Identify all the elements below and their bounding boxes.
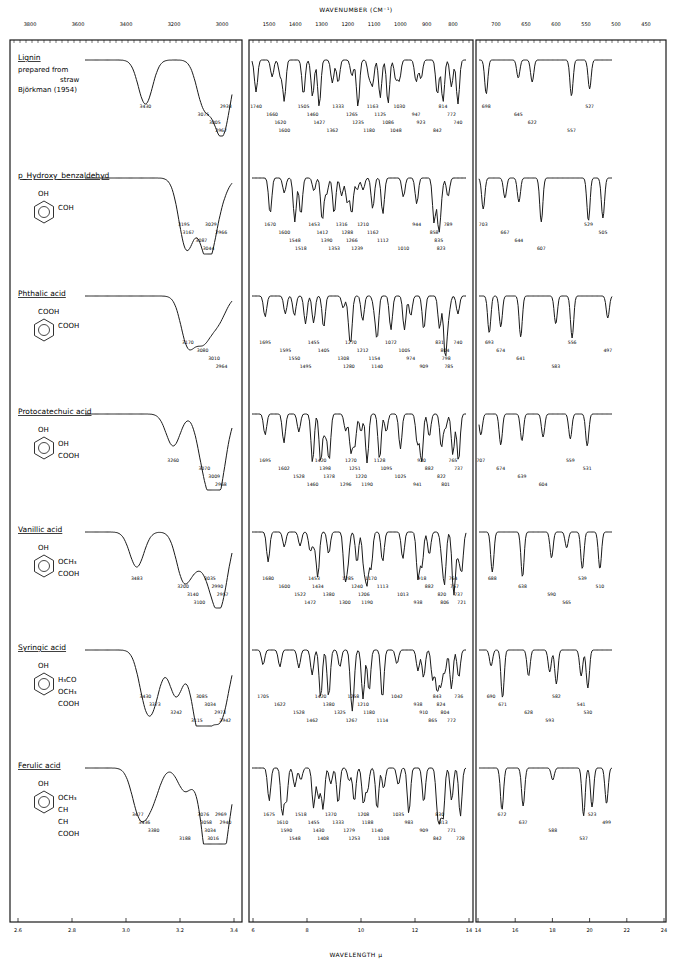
peak-label: 1455 [308,820,320,825]
peak-label: 909 [419,364,428,369]
peak-label: 3430 [140,104,152,109]
bottom-tick-label: 2.8 [68,927,76,933]
peak-label: 1251 [349,466,361,471]
peak-label: 830 [435,812,444,817]
top-tick-label: 800 [448,21,458,27]
peak-label: 1308 [337,356,349,361]
spectrum-trace-p3 [479,768,612,816]
peak-label: 772 [447,718,456,723]
benzene-ring-icon [35,319,54,341]
peak-label: 1258 [347,694,359,699]
peak-label: 3477 [132,812,144,817]
peak-label: 983 [404,820,413,825]
top-tick-label: 600 [551,21,561,27]
peak-label: 3016 [207,836,219,841]
peak-label: 842 [433,836,442,841]
peak-label: 882 [425,584,434,589]
peak-label: 1420 [315,458,327,463]
peak-label: 1239 [351,246,363,251]
spectrum-trace-p3 [479,60,612,96]
peak-label: 531 [583,466,592,471]
peak-label: 667 [501,230,510,235]
top-tick-label: 1000 [394,21,407,27]
formula-group: OH [38,662,49,670]
bottom-tick-label: 22 [624,927,630,933]
spectrum-row: p_Hydroxy_benzaldehydOHCOH31953167308730… [18,171,612,254]
peak-label: 537 [579,836,588,841]
peak-label: 1154 [368,356,380,361]
spectra: Ligninprepared fromstrawBjörkman (1954)3… [18,53,612,844]
peak-label: 1427 [313,120,325,125]
peak-label: 1505 [298,104,310,109]
peak-label: 737 [454,592,463,597]
peak-label: 2969 [215,812,227,817]
peak-label: 1600 [278,128,290,133]
peak-label: 707 [476,458,485,463]
peak-label: 693 [485,340,494,345]
peak-label: 688 [488,576,497,581]
peak-label: 3167 [183,230,195,235]
peak-label: 1206 [358,592,370,597]
compound-subtitle: Björkman (1954) [18,86,77,94]
panel-frame-p3 [476,40,666,922]
peak-label: 728 [456,836,465,841]
peak-label: 1408 [317,836,329,841]
peak-label: 1113 [377,584,389,589]
formula-group: H₃CO [58,676,77,684]
bottom-tick-label: 2.6 [14,927,22,933]
peak-label: 1288 [341,230,353,235]
peak-label: 3170 [182,340,194,345]
peak-label: 1212 [357,348,369,353]
aromatic-circle-icon [39,797,50,808]
spectrum-row: Phthalic acidCOOHCOOH3170308030102964169… [18,289,612,369]
peak-label: 824 [437,702,446,707]
peak-label: 909 [419,828,428,833]
peak-label: 1705 [257,694,269,699]
axes: 2.62.83.03.23.43800360034003200300068101… [14,21,667,933]
peak-label: 944 [412,222,421,227]
peak-label: 1013 [397,592,409,597]
peak-label: 3115 [191,718,203,723]
peak-label: 920 [417,458,426,463]
peak-label: 3034 [204,828,216,833]
peak-label: 530 [583,710,592,715]
peak-label: 1108 [378,836,390,841]
spectrum-row: Ligninprepared fromstrawBjörkman (1954)3… [18,53,612,136]
peak-label: 789 [444,222,453,227]
peak-label: 1333 [332,820,344,825]
top-tick-label: 450 [641,21,651,27]
peak-label: 1453 [308,576,320,581]
peak-label: 765 [448,458,457,463]
formula-group: OH [38,780,49,788]
bottom-tick-label: 12 [412,927,418,933]
peak-label: 637 [519,820,528,825]
peak-label: 3070 [198,466,210,471]
peak-label: 947 [412,112,421,117]
peak-label: 671 [498,702,507,707]
spectrum-row: Vanillic acidOHOCH₃COOH34833200314031003… [18,525,612,608]
peak-label: 672 [498,812,507,817]
peak-label: 3373 [149,702,161,707]
spectrum-row: Ferulic acidOHOCH₃CHCHCOOH34773436338031… [18,761,612,844]
peak-label: 1518 [295,246,307,251]
peak-label: 1235 [352,120,364,125]
peak-label: 2942 [219,718,231,723]
peak-label: 1420 [315,694,327,699]
bottom-tick-label: 3.4 [230,927,238,933]
peak-label: 499 [602,820,611,825]
peak-label: 3430 [140,694,152,699]
compound-name: Phthalic acid [18,289,66,298]
compound-name: Syringic acid [18,643,66,652]
peak-label: 1325 [334,710,346,715]
peak-label: 3085 [196,694,208,699]
peak-label: 622 [528,120,537,125]
compound-name: Ferulic acid [18,761,61,770]
peak-label: 3034 [204,702,216,707]
peak-label: 938 [414,600,423,605]
peak-label: 1125 [374,112,386,117]
peak-label: 1595 [279,348,291,353]
bottom-axis-title: WAVELENGTH μ [329,951,382,959]
peak-label: 1210 [357,702,369,707]
peak-label: 527 [585,104,594,109]
peak-label: 1660 [266,112,278,117]
